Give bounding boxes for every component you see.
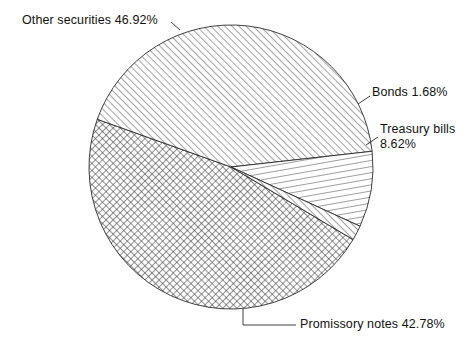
pie-label-promissory-notes: Promissory notes 42.78% xyxy=(300,317,445,332)
pie-label-treasury-bills: Treasury bills 8.62% xyxy=(380,122,455,152)
leader-line-bonds xyxy=(358,96,370,104)
leader-line-promissory-notes xyxy=(243,309,296,325)
pie-label-other-securities: Other securities 46.92% xyxy=(22,13,158,28)
pie-label-treasury-bills-name: Treasury bills xyxy=(380,122,455,137)
pie-label-bonds: Bonds 1.68% xyxy=(372,85,447,100)
pie-chart-canvas xyxy=(0,0,468,350)
leader-line-other-securities xyxy=(171,22,180,30)
pie-slices xyxy=(89,25,373,309)
pie-chart-figure: Other securities 46.92% Bonds 1.68% Trea… xyxy=(0,0,468,350)
pie-label-treasury-bills-value: 8.62% xyxy=(380,137,455,152)
